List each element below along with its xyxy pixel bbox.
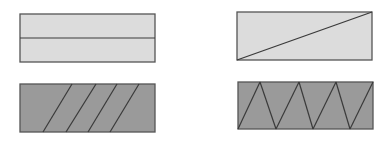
panel-bottom-right bbox=[238, 82, 373, 129]
panel-top-left bbox=[20, 14, 155, 62]
rectangle-division-diagram bbox=[0, 0, 392, 143]
panel-bottom-left bbox=[20, 84, 155, 132]
panel-top-right bbox=[237, 12, 372, 60]
figure-canvas bbox=[0, 0, 392, 143]
